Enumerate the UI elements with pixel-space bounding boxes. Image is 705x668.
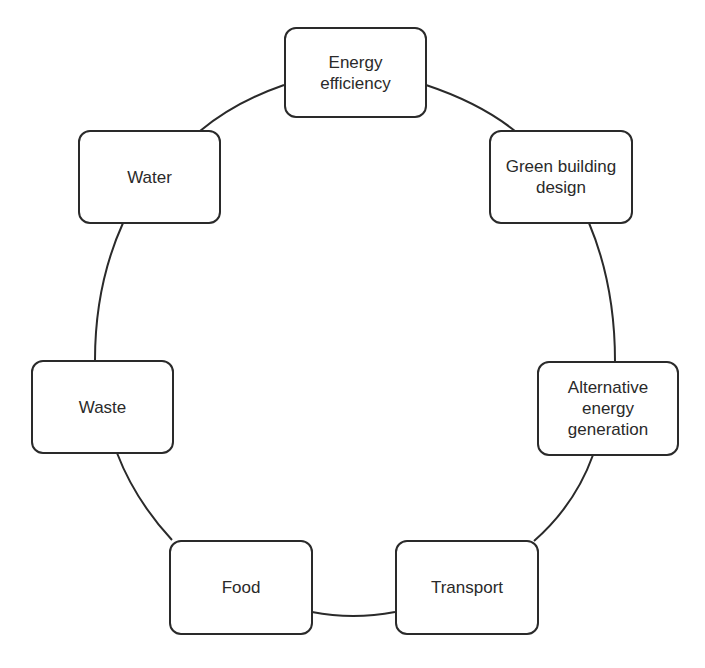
sustainability-cycle-diagram: Energy efficiency Green building design … <box>0 0 705 668</box>
node-water: Water <box>78 130 221 224</box>
node-transport: Transport <box>395 540 539 635</box>
connector-food-to-waste <box>117 453 172 540</box>
node-green-building-design: Green building design <box>489 130 633 224</box>
connector-energy-to-green <box>426 85 515 131</box>
node-alternative-energy-generation: Alternative energy generation <box>537 361 679 456</box>
connector-waste-to-water <box>95 223 123 360</box>
node-waste: Waste <box>31 360 174 454</box>
connector-alternative-to-transport <box>534 455 593 541</box>
connector-transport-to-food <box>312 612 395 616</box>
node-energy-efficiency: Energy efficiency <box>284 27 427 118</box>
connector-green-to-alternative <box>589 223 615 361</box>
connector-water-to-energy <box>200 85 284 131</box>
node-food: Food <box>169 540 313 635</box>
